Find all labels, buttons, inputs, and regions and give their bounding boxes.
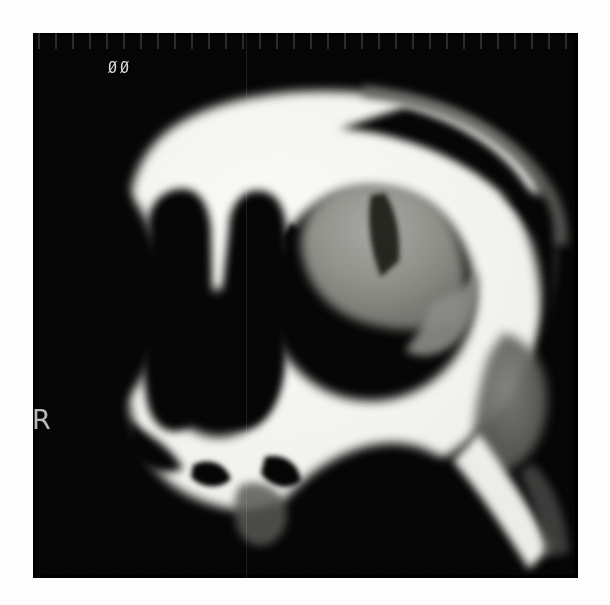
laterality-marker-text: R (33, 404, 52, 435)
ct-scan-image (33, 33, 578, 578)
ct-scan-field[interactable]: ØØ R (33, 33, 578, 578)
page-background: ØØ R (0, 0, 610, 605)
series-marker-text: ØØ (108, 59, 132, 77)
